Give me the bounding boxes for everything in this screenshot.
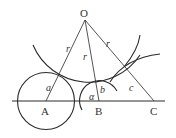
label-angle-alpha: α bbox=[89, 91, 95, 102]
label-a: A bbox=[41, 105, 49, 117]
label-c: C bbox=[150, 105, 157, 117]
label-oc-r: r bbox=[106, 38, 110, 49]
label-o: O bbox=[80, 7, 88, 19]
label-b: B bbox=[95, 105, 102, 117]
segment-oa bbox=[46, 20, 85, 101]
label-a-radius: a bbox=[46, 82, 51, 93]
label-ob-r: r bbox=[83, 51, 87, 62]
label-b-radius: b bbox=[100, 84, 105, 95]
tangent-circles-diagram: O A B C r r r a b c α bbox=[0, 0, 176, 138]
label-oa-r: r bbox=[66, 43, 70, 54]
segment-oc bbox=[85, 20, 154, 101]
label-c-radius: c bbox=[129, 82, 134, 93]
segment-ob bbox=[85, 20, 99, 101]
